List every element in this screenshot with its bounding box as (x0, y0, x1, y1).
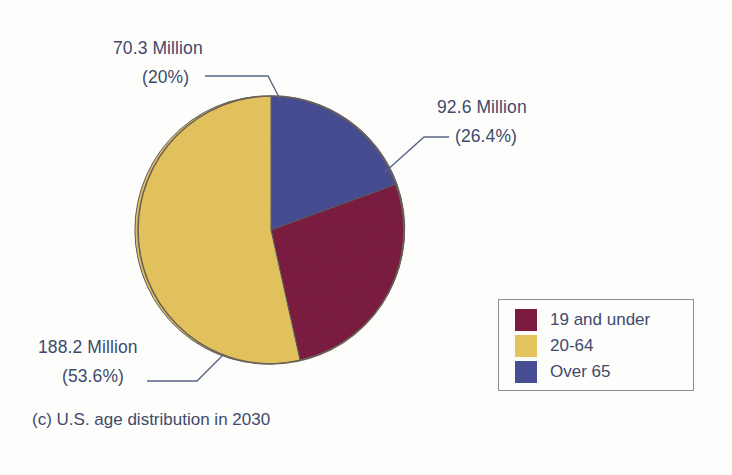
callout-over-65-value: 70.3 Million (113, 38, 203, 59)
leader-lines (0, 0, 732, 475)
callout-20-64-percent: (53.6%) (62, 366, 124, 387)
legend-swatch-20-64 (515, 335, 537, 357)
leader-line-20-64 (147, 354, 224, 381)
leader-line-19-and-under (385, 137, 449, 172)
leader-line-over-65 (205, 76, 280, 99)
legend: 19 and under 20-64 Over 65 (498, 299, 694, 391)
legend-label-20-64: 20-64 (550, 336, 593, 356)
legend-label-over-65: Over 65 (550, 362, 610, 382)
legend-item-19-and-under: 19 and under (515, 308, 650, 332)
figure-panel: 70.3 Million (20%) 92.6 Million (26.4%) … (0, 0, 732, 475)
callout-20-64-value: 188.2 Million (38, 337, 138, 358)
legend-swatch-19-and-under (515, 309, 537, 331)
legend-item-over-65: Over 65 (515, 360, 610, 384)
callout-over-65-percent: (20%) (142, 67, 189, 88)
legend-swatch-over-65 (515, 361, 537, 383)
legend-label-19-and-under: 19 and under (550, 310, 650, 330)
callout-19-and-under-value: 92.6 Million (437, 97, 527, 118)
callout-19-and-under-percent: (26.4%) (455, 126, 517, 147)
figure-caption: (c) U.S. age distribution in 2030 (32, 410, 270, 430)
legend-item-20-64: 20-64 (515, 334, 593, 358)
